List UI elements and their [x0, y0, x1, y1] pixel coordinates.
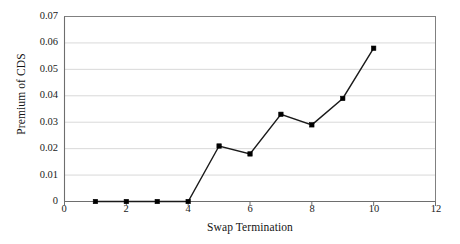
plot-frame: [65, 17, 436, 202]
data-series-line: [95, 48, 373, 201]
plot-area: [0, 0, 460, 244]
chart-container: Premium of CDS 0.07 0.06 0.05 0.04 0.03 …: [0, 0, 460, 244]
